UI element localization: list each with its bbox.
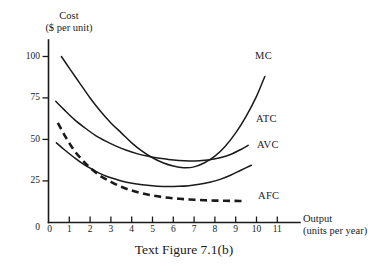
y-tick-marks [43,57,49,181]
curve-mc [61,57,264,168]
x-axis-title: Output (units per year) [303,213,367,237]
x-tick-label-7: 7 [186,224,202,235]
x-axis-title-line2: (units per year) [303,225,367,237]
curve-label-avc: AVC [257,139,279,151]
x-tick-label-8: 8 [207,224,223,235]
x-tick-label-5: 5 [145,224,161,235]
y-axis-title: Cost ($ per unit) [24,10,114,34]
y-tick-label-25: 25 [8,175,40,186]
x-tick-label-4: 4 [124,224,140,235]
x-tick-label-2: 2 [82,224,98,235]
x-tick-label-9: 9 [228,224,244,235]
curve-afc [58,123,246,201]
x-tick-label-11: 11 [268,224,286,235]
x-tick-label-1: 1 [61,224,77,235]
figure-caption: Text Figure 7.1(b) [0,242,368,258]
y-tick-label-0: 0 [8,222,40,233]
x-tick-label-0: 0 [42,224,58,235]
figure-container: Cost ($ per unit) Output (units per year… [0,0,368,269]
x-tick-label-6: 6 [165,224,181,235]
x-tick-label-3: 3 [103,224,119,235]
curve-label-atc: ATC [256,113,277,125]
x-tick-label-10: 10 [248,224,266,235]
y-axis-title-line1: Cost [24,10,114,22]
y-tick-label-50: 50 [8,134,40,145]
curve-label-mc: MC [255,50,272,62]
x-tick-marks [69,217,277,223]
y-tick-label-100: 100 [8,51,40,62]
y-tick-label-75: 75 [8,92,40,103]
x-axis-title-line1: Output [303,213,367,225]
y-axis-title-line2: ($ per unit) [24,22,114,34]
curve-label-afc: AFC [258,190,279,202]
